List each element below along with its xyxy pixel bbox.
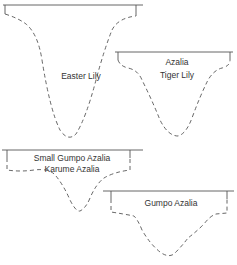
label-tiger-lily: Tiger Lily xyxy=(152,70,202,80)
label-gumpo-azalia: Gumpo Azalia xyxy=(136,198,206,208)
label-karume-azalia: Karume Azalia xyxy=(27,164,117,174)
label-azalia: Azalia xyxy=(152,57,202,67)
label-easter-lily: Easter Lily xyxy=(56,71,106,81)
diagram-canvas xyxy=(0,0,237,265)
label-small-gumpo-azalia: Small Gumpo Azalia xyxy=(27,153,117,163)
